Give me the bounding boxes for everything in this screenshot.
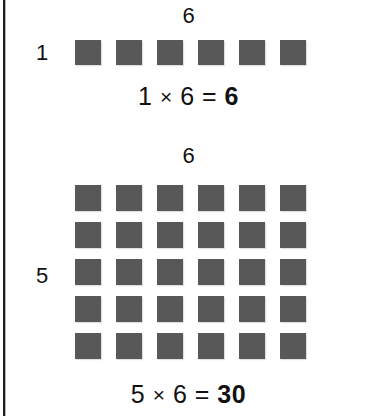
array-square	[157, 222, 183, 248]
square-array-grid	[75, 185, 306, 359]
array-square	[198, 259, 224, 285]
array-square	[198, 222, 224, 248]
multiply-sign-icon: ×	[160, 85, 173, 108]
column-count-label: 6	[0, 5, 377, 27]
array-square	[280, 296, 306, 322]
equation-right-factor: 6	[180, 82, 194, 110]
array-block-1x6: 6 1 1 × 6 = 6	[0, 0, 377, 140]
array-square	[198, 185, 224, 211]
array-square	[75, 185, 101, 211]
array-square	[198, 333, 224, 359]
array-square	[239, 185, 265, 211]
equation-product: 6	[225, 82, 239, 110]
array-square	[157, 333, 183, 359]
array-square	[198, 296, 224, 322]
array-square	[116, 296, 142, 322]
array-square	[116, 259, 142, 285]
array-square	[157, 40, 183, 65]
array-square	[116, 222, 142, 248]
array-square	[280, 222, 306, 248]
array-square	[75, 296, 101, 322]
equation-5x6: 5 × 6 = 30	[0, 380, 377, 410]
equals-sign-icon: =	[202, 82, 217, 110]
array-block-5x6: 6 5	[0, 140, 377, 416]
array-square	[157, 185, 183, 211]
array-square	[75, 222, 101, 248]
multiply-sign-icon: ×	[153, 383, 166, 406]
row-count-label: 5	[22, 265, 62, 287]
array-square	[157, 296, 183, 322]
array-square	[239, 40, 265, 65]
array-square	[116, 40, 142, 65]
array-square	[280, 185, 306, 211]
array-square	[157, 259, 183, 285]
array-square	[280, 259, 306, 285]
equation-left-factor: 5	[131, 380, 145, 408]
array-square	[239, 296, 265, 322]
equation-product: 30	[217, 380, 246, 408]
array-square	[75, 259, 101, 285]
array-square	[75, 40, 101, 65]
array-square	[239, 259, 265, 285]
array-square	[280, 40, 306, 65]
column-count-label: 6	[0, 145, 377, 167]
array-square	[239, 222, 265, 248]
array-square	[198, 40, 224, 65]
array-square	[116, 185, 142, 211]
array-square	[280, 333, 306, 359]
equation-left-factor: 1	[138, 82, 152, 110]
row-count-label: 1	[22, 42, 62, 64]
array-square	[239, 333, 265, 359]
array-square	[75, 333, 101, 359]
multiplication-array-figure: 6 1 1 × 6 = 6 6 5	[0, 0, 377, 416]
equation-1x6: 1 × 6 = 6	[0, 82, 377, 112]
equation-right-factor: 6	[173, 380, 187, 408]
square-array-grid	[75, 40, 306, 65]
array-square	[116, 333, 142, 359]
equals-sign-icon: =	[195, 380, 210, 408]
